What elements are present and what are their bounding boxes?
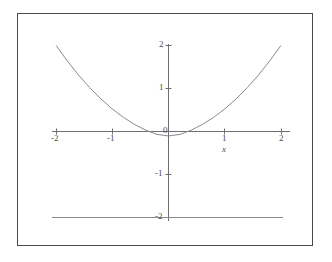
figure-canvas: -2 -1 0 1 2 2 1 -1 -2 x <box>0 0 332 262</box>
x-tick-label-2: 2 <box>279 134 284 143</box>
y-tick-label-minus2: -2 <box>155 212 163 221</box>
x-tick-label-minus1: -1 <box>107 134 115 143</box>
x-tick-label-zero: 0 <box>163 126 168 135</box>
x-tick-label-1: 1 <box>222 134 227 143</box>
x-axis-label: x <box>222 145 226 154</box>
x-tick-label-minus2: -2 <box>51 134 59 143</box>
y-tick-label-2: 2 <box>159 40 164 49</box>
y-tick-label-minus1: -1 <box>155 169 163 178</box>
y-tick-label-1: 1 <box>159 83 164 92</box>
